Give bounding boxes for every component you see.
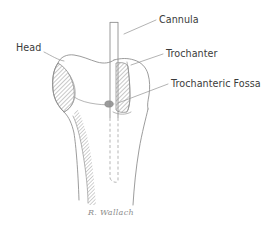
label-head: Head <box>16 42 41 53</box>
figure-background <box>0 0 274 225</box>
label-trochanteric-fossa: Trochanteric Fossa <box>170 78 261 89</box>
label-trochanter: Trochanter <box>165 48 217 59</box>
anatomical-figure: Head Cannula Trochanter Trochanteric Fos… <box>0 0 274 225</box>
trochanteric-fossa-marker <box>105 101 113 107</box>
artist-signature: R. Wallach <box>87 208 134 217</box>
label-cannula: Cannula <box>159 14 199 25</box>
femur-diagram-svg: Head Cannula Trochanter Trochanteric Fos… <box>0 0 274 225</box>
